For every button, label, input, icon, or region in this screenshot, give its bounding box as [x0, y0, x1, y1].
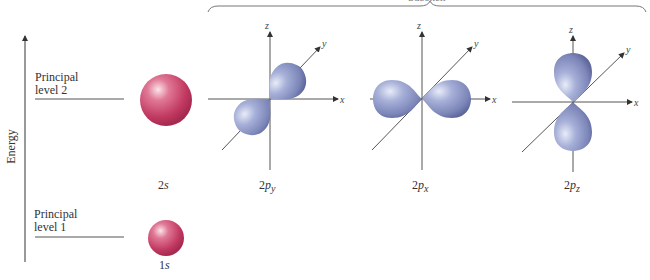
svg-text:y: y — [473, 38, 479, 49]
svg-text:x: x — [339, 94, 345, 105]
level-2-label: Principal level 2 — [35, 71, 78, 97]
subshell-label: Subshell — [408, 0, 446, 4]
orbital-1s-shape — [148, 220, 184, 256]
orbital-2s-shape — [140, 74, 192, 126]
svg-text:z: z — [264, 20, 269, 31]
orbital-2px-label: 2px — [412, 178, 428, 194]
orbital-2s-label: 2s — [158, 178, 169, 193]
svg-text:z: z — [568, 24, 573, 35]
energy-axis-label: Energy — [5, 129, 18, 163]
diagram-canvas: z y x z y x z y x — [0, 0, 650, 280]
svg-text:x: x — [491, 94, 497, 105]
svg-text:z: z — [416, 20, 421, 31]
svg-text:y: y — [321, 38, 327, 49]
orbital-2pz-label: 2pz — [564, 178, 580, 194]
svg-text:y: y — [625, 44, 631, 55]
level-1-label: Principal level 1 — [34, 208, 77, 234]
svg-text:x: x — [633, 97, 639, 108]
orbital-2py-label: 2py — [259, 178, 275, 194]
orbital-1s-label: 1s — [159, 258, 170, 273]
